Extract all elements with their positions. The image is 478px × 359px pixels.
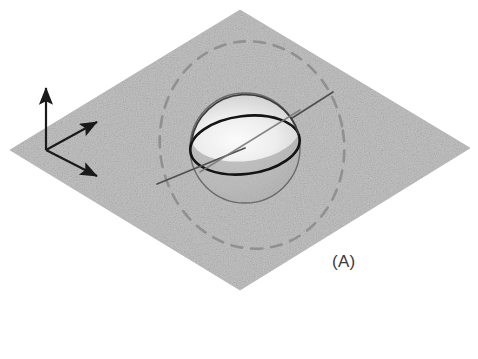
panel-label: (A): [332, 252, 356, 272]
figure-canvas: [0, 0, 478, 359]
figure-panel-a: (A): [0, 0, 478, 359]
